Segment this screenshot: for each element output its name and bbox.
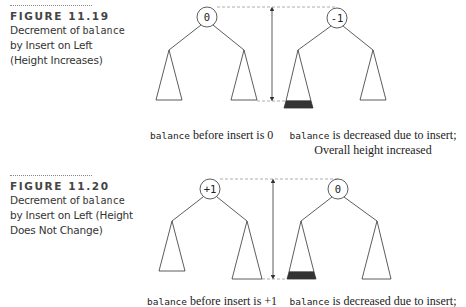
caption-code: balance (289, 296, 329, 307)
caption-code: balance (150, 130, 190, 141)
fig1-after-caption: balance is decreased due to insert; Over… (283, 128, 463, 157)
left-subtree (159, 221, 185, 271)
caption-text: is decreased due to insert; (330, 294, 457, 307)
caption-line2: Overall height increased (314, 143, 431, 157)
fig2-after-caption: balance is decreased due to insert; (283, 294, 463, 307)
fig1-before-tree: 0 (156, 7, 257, 100)
left-subtree (286, 50, 311, 101)
right-subtree (362, 221, 391, 279)
caption-text: is decreased due to insert; (330, 128, 457, 142)
fig2-before-caption: balance before insert is +1 (147, 294, 277, 307)
left-subtree (156, 50, 182, 100)
right-subtree (232, 221, 262, 279)
fig2-after-tree: 0 (287, 179, 391, 279)
caption-text: before insert is +1 (187, 294, 277, 307)
inserted-level (284, 101, 313, 108)
right-subtree (231, 50, 257, 100)
root-balance-value: 0 (335, 183, 341, 195)
fig1-after-tree: -1 (284, 8, 386, 108)
fig1-before-caption: balance before insert is 0 (150, 128, 273, 143)
root-balance-value: +1 (204, 183, 217, 195)
caption-code: balance (289, 130, 329, 141)
caption-text: before insert is 0 (190, 128, 273, 142)
left-subtree (289, 221, 314, 272)
fig2-before-tree: +1 (159, 179, 262, 279)
root-balance-value: 0 (204, 11, 210, 23)
inserted-level (287, 272, 316, 279)
caption-code: balance (147, 296, 187, 307)
root-balance-value: -1 (331, 12, 344, 24)
right-subtree (360, 50, 386, 100)
